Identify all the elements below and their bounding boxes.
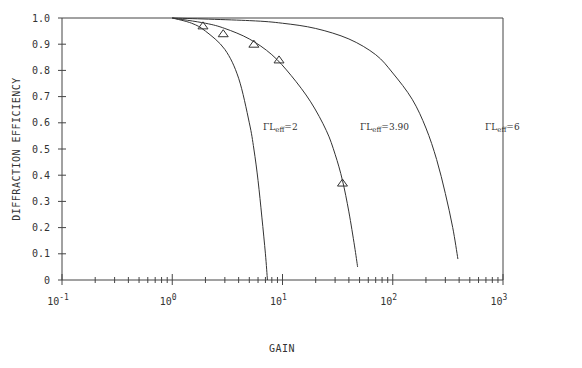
- triangle-marker-icon: [218, 30, 228, 37]
- x-tick-label: 101: [270, 293, 287, 307]
- curve-line: [172, 18, 267, 280]
- curves: [172, 18, 458, 280]
- y-tick-label: 0.7: [32, 91, 50, 102]
- x-axis: 10-1100101102103: [47, 274, 507, 307]
- x-tick-label: 100: [160, 293, 177, 307]
- data-markers: [198, 22, 348, 186]
- y-tick-label: 0.8: [32, 65, 50, 76]
- y-tick-label: 0.1: [32, 248, 50, 259]
- curve-line: [172, 18, 357, 267]
- y-tick-label: 0.2: [32, 222, 50, 233]
- curve-line: [172, 18, 458, 259]
- y-tick-label: 0.9: [32, 39, 50, 50]
- y-tick-label: 1.0: [32, 13, 50, 24]
- y-tick-label: 0: [44, 275, 50, 286]
- x-tick-label: 102: [380, 293, 397, 307]
- diffraction-efficiency-chart: 00.10.20.30.40.50.60.70.80.91.0 10-11001…: [0, 0, 582, 368]
- y-tick-label: 0.3: [32, 196, 50, 207]
- curve-label: ΓLeff=2: [263, 122, 298, 134]
- y-tick-label: 0.5: [32, 144, 50, 155]
- plot-frame: [62, 18, 503, 280]
- y-axis-title: DIFFRACTION EFFICIENCY: [11, 77, 22, 220]
- curve-label: ΓLeff=3.90: [360, 122, 409, 134]
- y-axis: 00.10.20.30.40.50.60.70.80.91.0: [32, 13, 66, 286]
- x-tick-label: 103: [491, 293, 508, 307]
- x-axis-title: GAIN: [269, 343, 295, 354]
- curve-labels: ΓLeff=2ΓLeff=3.90ΓLeff=6: [263, 122, 520, 134]
- y-tick-label: 0.4: [32, 170, 50, 181]
- plot-border: [62, 18, 503, 280]
- curve-label: ΓLeff=6: [485, 122, 520, 134]
- y-tick-label: 0.6: [32, 117, 50, 128]
- x-tick-label: 10-1: [47, 293, 69, 307]
